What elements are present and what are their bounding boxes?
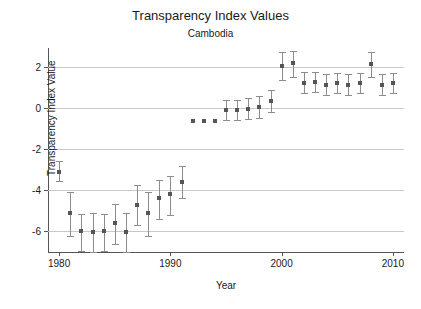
error-bar-cap <box>56 181 63 182</box>
x-tick-label: 1980 <box>48 258 70 269</box>
x-tick-mark <box>393 252 394 256</box>
data-point-marker <box>79 229 83 233</box>
chart-title: Transparency Index Values <box>0 8 421 23</box>
y-tick-label: -6 <box>32 226 41 237</box>
data-point-marker <box>246 107 250 111</box>
error-bar-cap <box>234 100 241 101</box>
x-axis-label: Year <box>48 280 404 291</box>
error-bar-cap <box>167 176 174 177</box>
error-bar-cap <box>279 80 286 81</box>
error-bar-cap <box>323 74 330 75</box>
x-tick-mark <box>282 252 283 256</box>
error-bar-cap <box>323 95 330 96</box>
data-point-marker <box>102 229 106 233</box>
error-bar-cap <box>245 98 252 99</box>
error-bar-cap <box>56 161 63 162</box>
data-point-marker <box>202 119 206 123</box>
x-tick-mark <box>170 252 171 256</box>
error-bar-cap <box>345 95 352 96</box>
error-bar-cap <box>279 52 286 53</box>
error-bar-cap <box>145 236 152 237</box>
error-bar-cap <box>334 73 341 74</box>
error-bar-cap <box>67 192 74 193</box>
error-bar-cap <box>301 93 308 94</box>
data-point-marker <box>124 230 128 234</box>
data-point-marker <box>224 108 228 112</box>
chart-subtitle: Cambodia <box>0 28 421 39</box>
error-bar-cap <box>90 252 97 253</box>
error-bar-cap <box>290 77 297 78</box>
error-bar-cap <box>179 166 186 167</box>
data-point-marker <box>335 81 339 85</box>
error-bar-cap <box>101 214 108 215</box>
error-bar-cap <box>112 244 119 245</box>
gridline <box>48 190 404 191</box>
y-tick-label: -4 <box>32 185 41 196</box>
error-bar-cap <box>179 198 186 199</box>
y-tick-label: 0 <box>35 102 41 113</box>
error-bar-cap <box>90 213 97 214</box>
data-point-marker <box>180 180 184 184</box>
plot-area: 20-2-4-6 1980199020002010 Transparency I… <box>48 48 404 252</box>
data-point-marker <box>146 211 150 215</box>
error-bar-cap <box>145 192 152 193</box>
error-bar-cap <box>156 180 163 181</box>
data-point-marker <box>213 119 217 123</box>
error-bar-cap <box>357 93 364 94</box>
data-point-marker <box>168 192 172 196</box>
y-tick-label: 2 <box>35 61 41 72</box>
error-bar-cap <box>245 119 252 120</box>
y-tick-label: -2 <box>32 143 41 154</box>
error-bar-cap <box>334 93 341 94</box>
error-bar-cap <box>290 51 297 52</box>
data-point-marker <box>113 221 117 225</box>
data-point-marker <box>346 83 350 87</box>
data-point-marker <box>157 196 161 200</box>
y-axis-label: Transparency Index Value <box>46 60 57 176</box>
x-tick-label: 2000 <box>271 258 293 269</box>
error-bar-cap <box>345 74 352 75</box>
data-point-marker <box>280 64 284 68</box>
error-bar-cap <box>368 52 375 53</box>
data-point-marker <box>257 105 261 109</box>
gridline <box>48 149 404 150</box>
error-bar-cap <box>123 213 130 214</box>
data-point-marker <box>369 62 373 66</box>
data-point-marker <box>313 80 317 84</box>
data-point-marker <box>135 203 139 207</box>
data-point-marker <box>235 108 239 112</box>
error-bar-cap <box>268 90 275 91</box>
error-bar-cap <box>312 92 319 93</box>
error-bar-cap <box>134 185 141 186</box>
error-bar-cap <box>156 219 163 220</box>
error-bar-cap <box>379 95 386 96</box>
y-tick-mark <box>44 190 48 191</box>
error-bar-cap <box>134 225 141 226</box>
error-bar-cap <box>112 204 119 205</box>
data-point-marker <box>291 61 295 65</box>
data-point-marker <box>191 119 195 123</box>
error-bar-cap <box>368 77 375 78</box>
data-point-marker <box>68 211 72 215</box>
chart-figure: Transparency Index Values Cambodia 20-2-… <box>0 0 421 309</box>
x-tick-label: 2010 <box>382 258 404 269</box>
error-bar-cap <box>268 112 275 113</box>
error-bar-cap <box>123 252 130 253</box>
error-bar-cap <box>390 73 397 74</box>
error-bar-cap <box>223 100 230 101</box>
x-tick-mark <box>59 252 60 256</box>
error-bar-cap <box>67 236 74 237</box>
x-axis-line <box>48 252 404 253</box>
error-bar-cap <box>167 215 174 216</box>
error-bar-cap <box>223 120 230 121</box>
error-bar-cap <box>390 93 397 94</box>
data-point-marker <box>358 81 362 85</box>
error-bar-cap <box>312 72 319 73</box>
data-point-marker <box>57 170 61 174</box>
error-bar-cap <box>256 96 263 97</box>
error-bar-cap <box>78 214 85 215</box>
error-bar-cap <box>357 73 364 74</box>
error-bar-cap <box>301 72 308 73</box>
error-bar-cap <box>101 251 108 252</box>
error-bar-cap <box>234 120 241 121</box>
